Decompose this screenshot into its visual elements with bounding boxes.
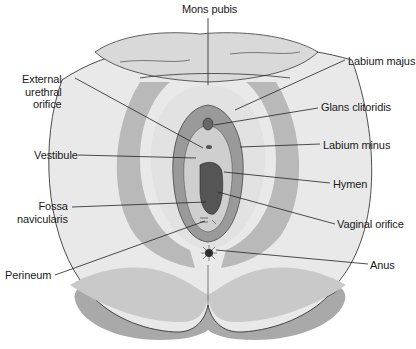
- label-external-urethral-orifice: External urethral orifice: [22, 73, 62, 111]
- label-hymen: Hymen: [333, 178, 367, 191]
- label-vestibule: Vestibule: [34, 149, 78, 162]
- label-glans-clitoridis: Glans clitoridis: [321, 101, 391, 114]
- label-anus: Anus: [370, 259, 395, 272]
- glans-clitoridis: [203, 118, 213, 130]
- label-perineum: Perineum: [5, 269, 51, 282]
- vaginal-orifice: [200, 162, 223, 214]
- label-fossa-navicularis: Fossa navicularis: [17, 200, 68, 225]
- label-mons-pubis: Mons pubis: [182, 3, 237, 16]
- label-labium-majus: Labium majus: [348, 55, 415, 68]
- label-vaginal-orifice: Vaginal orifice: [337, 218, 404, 231]
- vulva-illustration: [0, 0, 416, 349]
- urethral-orifice: [206, 145, 212, 149]
- label-labium-minus: Labium minus: [323, 139, 390, 152]
- anatomy-diagram: Mons pubis External urethral orifice Ves…: [0, 0, 416, 349]
